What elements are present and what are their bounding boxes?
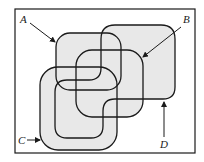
label-d: D bbox=[159, 138, 168, 150]
label-c: C bbox=[18, 134, 26, 146]
venn-diagram: A B C D bbox=[0, 0, 204, 162]
label-b: B bbox=[183, 13, 190, 25]
label-a: A bbox=[19, 13, 27, 25]
